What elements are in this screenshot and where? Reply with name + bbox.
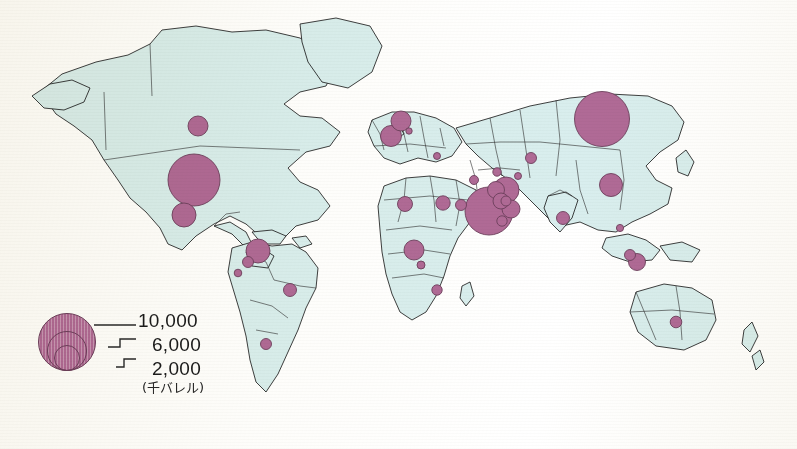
legend-label-2000: 2,000 — [152, 359, 201, 378]
symbol-australia — [670, 316, 682, 328]
oil-production-map-figure: 10,000 6,000 2,000 (千バレル) — [0, 0, 797, 449]
symbol-syria — [470, 176, 479, 185]
symbol-malaysia — [625, 250, 636, 261]
legend-label-10000: 10,000 — [138, 311, 198, 330]
legend-label-6000: 6,000 — [152, 335, 201, 354]
symbol-argentina — [261, 339, 272, 350]
symbol-azerbaijan — [493, 168, 501, 176]
symbol-denmark — [406, 128, 412, 134]
map-legend: 10,000 6,000 2,000 (千バレル) — [38, 305, 223, 405]
symbol-vietnam — [616, 224, 623, 231]
symbol-russia — [575, 92, 630, 147]
symbol-colombia — [243, 257, 254, 268]
symbol-gabon — [417, 261, 425, 269]
symbol-egypt — [456, 200, 467, 211]
symbol-oman — [497, 216, 507, 226]
symbol-brazil — [284, 284, 297, 297]
symbol-canada — [188, 116, 208, 136]
symbol-romania — [434, 153, 441, 160]
symbol-china — [600, 174, 623, 197]
symbol-mexico — [172, 203, 196, 227]
symbol-algeria — [398, 197, 413, 212]
legend-unit-label: (千バレル) — [142, 377, 204, 396]
legend-circle-2000 — [54, 345, 80, 371]
symbol-ecuador — [234, 269, 242, 277]
symbol-libya — [436, 196, 450, 210]
symbol-nigeria — [404, 240, 424, 260]
symbol-united-states — [168, 154, 220, 206]
symbol-qatar — [501, 196, 511, 206]
symbol-turkmenistan — [515, 173, 522, 180]
symbol-india — [557, 212, 570, 225]
symbol-angola — [432, 285, 442, 295]
symbol-kazakhstan — [526, 153, 537, 164]
